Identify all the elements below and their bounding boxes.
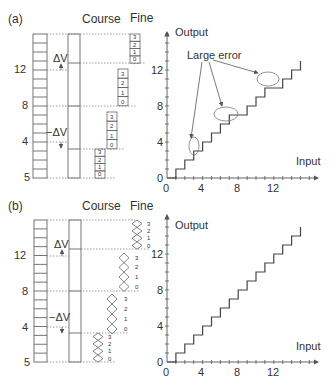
tick-12: 12 bbox=[14, 63, 26, 75]
fine-digit: 1 bbox=[121, 90, 125, 96]
xtick-12: 12 bbox=[267, 182, 279, 194]
fine-label-b: Fine bbox=[130, 199, 154, 213]
fine-digit: 0 bbox=[133, 56, 137, 62]
tick-5: 5 bbox=[24, 171, 30, 183]
fine-digit: 1 bbox=[135, 274, 139, 280]
delta-v-label-b: ΔV bbox=[54, 238, 69, 250]
input-label-b: Input bbox=[296, 340, 320, 352]
resistor-ladder-b bbox=[34, 220, 47, 362]
fine-digit: 0 bbox=[135, 284, 139, 290]
fine-digit: 0 bbox=[110, 142, 114, 148]
ytick-8: 8 bbox=[157, 100, 163, 112]
fine-digit: 3 bbox=[108, 334, 112, 340]
fine-digit: 2 bbox=[133, 42, 137, 48]
output-label-b: Output bbox=[175, 219, 208, 231]
neg-delta-v-label-b: −ΔV bbox=[49, 311, 71, 323]
fine-digit: 1 bbox=[110, 133, 114, 139]
diagram-canvas: (a) Course Fine 12 8 4 5 ΔV −ΔV bbox=[0, 0, 336, 392]
fine-digit: 3 bbox=[147, 221, 151, 227]
tick-8-b: 8 bbox=[22, 285, 28, 297]
course-label: Course bbox=[82, 12, 121, 26]
fine-digit: 2 bbox=[147, 228, 151, 234]
fine-label: Fine bbox=[130, 11, 154, 25]
fine-digit: 0 bbox=[121, 99, 125, 105]
xtick-8: 8 bbox=[234, 182, 240, 194]
ytick-8-b: 8 bbox=[157, 284, 163, 296]
fine-digit: 2 bbox=[108, 341, 112, 347]
ytick-12: 12 bbox=[151, 64, 163, 76]
fine-digit: 2 bbox=[121, 80, 125, 86]
fine-digit: 3 bbox=[124, 296, 128, 302]
fine-digit: 1 bbox=[124, 316, 128, 322]
course-label-b: Course bbox=[82, 199, 121, 213]
ytick-4-b: 4 bbox=[157, 320, 163, 332]
input-label: Input bbox=[296, 155, 320, 167]
tick-4: 4 bbox=[22, 135, 28, 147]
tick-8: 8 bbox=[22, 99, 28, 111]
chart-a: Output Input 0 4 8 12 0 4 8 12 Large err… bbox=[151, 26, 320, 194]
xtick-4-b: 4 bbox=[198, 366, 204, 378]
fine-digit: 3 bbox=[98, 149, 102, 155]
fine-digit: 3 bbox=[110, 114, 114, 120]
fine-digit: 0 bbox=[108, 356, 112, 362]
fine-digit: 2 bbox=[98, 157, 102, 163]
fine-digit: 1 bbox=[108, 348, 112, 354]
tick-12-b: 12 bbox=[14, 249, 26, 261]
fine-digit: 2 bbox=[124, 306, 128, 312]
tick-4-b: 4 bbox=[22, 321, 28, 333]
fine-digit: 3 bbox=[135, 255, 139, 261]
panel-b-label: (b) bbox=[8, 199, 23, 213]
delta-v-label: ΔV bbox=[53, 52, 68, 64]
fine-digit: 3 bbox=[133, 34, 137, 40]
xtick-0-b: 0 bbox=[163, 366, 169, 378]
fine-digit: 2 bbox=[135, 264, 139, 270]
large-error-annotation: Large error bbox=[187, 49, 242, 61]
fine-digit: 3 bbox=[121, 71, 125, 77]
output-label: Output bbox=[175, 26, 208, 38]
chart-b: Output Input 0 4 8 12 0 4 8 12 bbox=[151, 215, 320, 378]
xtick-8-b: 8 bbox=[234, 366, 240, 378]
xtick-4: 4 bbox=[198, 182, 204, 194]
resistor-ladder bbox=[33, 34, 47, 178]
tick-5-b: 5 bbox=[24, 356, 30, 368]
ytick-12-b: 12 bbox=[151, 248, 163, 260]
xtick-12-b: 12 bbox=[267, 366, 279, 378]
fine-digit: 1 bbox=[133, 49, 137, 55]
fine-digit: 1 bbox=[147, 235, 151, 241]
panel-a: (a) Course Fine 12 8 4 5 ΔV −ΔV bbox=[8, 11, 154, 183]
fine-digit: 0 bbox=[98, 171, 102, 177]
xtick-0: 0 bbox=[163, 182, 169, 194]
panel-b: (b) Course Fine 12 8 4 5 ΔV −ΔV 32103210… bbox=[8, 199, 154, 368]
fine-digit: 1 bbox=[98, 164, 102, 170]
fine-digit: 0 bbox=[124, 326, 128, 332]
fine-digit: 2 bbox=[110, 123, 114, 129]
neg-delta-v-label: −ΔV bbox=[46, 126, 68, 138]
panel-a-label: (a) bbox=[8, 12, 23, 26]
ytick-4: 4 bbox=[157, 136, 163, 148]
